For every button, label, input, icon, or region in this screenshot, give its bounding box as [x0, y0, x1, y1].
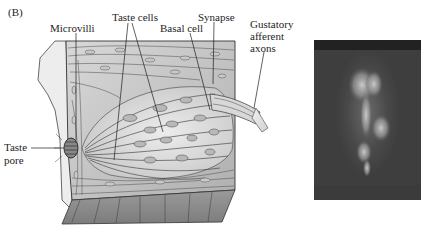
label-taste-pore-line2: pore — [4, 155, 24, 166]
leader-gustatory — [254, 52, 264, 108]
label-taste-pore-line1: Taste — [4, 142, 27, 153]
label-gustatory-line1: Gustatory — [250, 19, 293, 30]
fluorescent-taste-cells — [314, 40, 421, 200]
label-basal-cell: Basal cell — [160, 23, 203, 34]
label-gustatory-line2: afferent — [250, 31, 284, 42]
taste-bud-micrograph — [314, 40, 421, 200]
label-gustatory-line3: axons — [250, 43, 276, 54]
label-taste-cells: Taste cells — [112, 12, 158, 23]
photo-top-band — [314, 40, 421, 50]
label-synapse: Synapse — [198, 12, 235, 23]
label-microvilli: Microvilli — [50, 23, 95, 34]
